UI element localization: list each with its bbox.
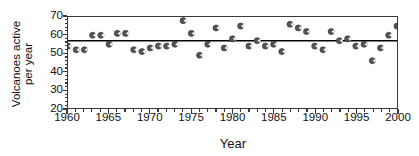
- x-tick-minor: [331, 109, 332, 112]
- x-axis-tick-labels: 196019651970197519801985199019952000: [0, 0, 419, 156]
- x-tick-minor: [257, 109, 258, 112]
- x-tick-label: 1960: [45, 112, 89, 124]
- x-tick-minor: [298, 109, 299, 112]
- y-tick-minor: [65, 41, 68, 42]
- x-tick-major: [191, 109, 192, 114]
- x-tick-minor: [389, 109, 390, 112]
- y-tick-minor: [65, 64, 68, 65]
- x-tick-label: 1975: [169, 112, 213, 124]
- x-tick-major: [315, 109, 316, 114]
- x-tick-major: [397, 109, 398, 114]
- scatter-chart-figure: Volcanoes active per year 203040506070 1…: [0, 0, 419, 156]
- y-tick-minor: [65, 19, 68, 20]
- y-tick-major: [63, 71, 67, 72]
- y-tick-minor: [65, 30, 68, 31]
- y-tick-major: [63, 90, 67, 91]
- x-tick-label: 1990: [293, 112, 337, 124]
- x-tick-minor: [199, 109, 200, 112]
- x-tick-major: [108, 109, 109, 114]
- x-tick-minor: [348, 109, 349, 112]
- x-tick-minor: [240, 109, 241, 112]
- x-tick-minor: [364, 109, 365, 112]
- x-tick-minor: [83, 109, 84, 112]
- y-tick-minor: [65, 56, 68, 57]
- x-axis-title: Year: [67, 136, 399, 151]
- y-tick-minor: [65, 101, 68, 102]
- y-tick-minor: [65, 60, 68, 61]
- x-tick-label: 1980: [211, 112, 255, 124]
- x-tick-label: 2000: [376, 112, 419, 124]
- x-tick-minor: [141, 109, 142, 112]
- x-tick-label: 1995: [335, 112, 379, 124]
- x-tick-minor: [265, 109, 266, 112]
- x-tick-minor: [373, 109, 374, 112]
- x-tick-minor: [75, 109, 76, 112]
- y-tick-minor: [65, 75, 68, 76]
- x-tick-label: 1985: [252, 112, 296, 124]
- y-tick-minor: [65, 67, 68, 68]
- x-tick-minor: [174, 109, 175, 112]
- y-tick-minor: [65, 79, 68, 80]
- x-tick-major: [232, 109, 233, 114]
- x-tick-minor: [306, 109, 307, 112]
- x-tick-label: 1970: [128, 112, 172, 124]
- x-tick-minor: [157, 109, 158, 112]
- y-tick-minor: [65, 23, 68, 24]
- y-tick-major: [63, 15, 67, 16]
- x-tick-label: 1965: [86, 112, 130, 124]
- x-tick-minor: [224, 109, 225, 112]
- y-tick-major: [63, 53, 67, 54]
- x-tick-minor: [133, 109, 134, 112]
- x-tick-minor: [207, 109, 208, 112]
- y-tick-minor: [65, 82, 68, 83]
- x-tick-major: [273, 109, 274, 114]
- x-tick-major: [356, 109, 357, 114]
- x-tick-minor: [290, 109, 291, 112]
- x-tick-minor: [166, 109, 167, 112]
- y-tick-minor: [65, 86, 68, 87]
- y-tick-major: [63, 34, 67, 35]
- y-tick-minor: [65, 45, 68, 46]
- x-tick-minor: [248, 109, 249, 112]
- y-tick-minor: [65, 94, 68, 95]
- x-tick-minor: [339, 109, 340, 112]
- x-tick-minor: [323, 109, 324, 112]
- x-tick-minor: [215, 109, 216, 112]
- y-tick-minor: [65, 97, 68, 98]
- x-tick-minor: [91, 109, 92, 112]
- x-tick-major: [66, 109, 67, 114]
- x-tick-minor: [116, 109, 117, 112]
- x-tick-minor: [381, 109, 382, 112]
- y-tick-minor: [65, 38, 68, 39]
- x-tick-minor: [124, 109, 125, 112]
- x-tick-major: [149, 109, 150, 114]
- y-tick-minor: [65, 49, 68, 50]
- y-tick-minor: [65, 105, 68, 106]
- x-tick-minor: [100, 109, 101, 112]
- x-tick-minor: [282, 109, 283, 112]
- x-tick-minor: [182, 109, 183, 112]
- y-tick-minor: [65, 27, 68, 28]
